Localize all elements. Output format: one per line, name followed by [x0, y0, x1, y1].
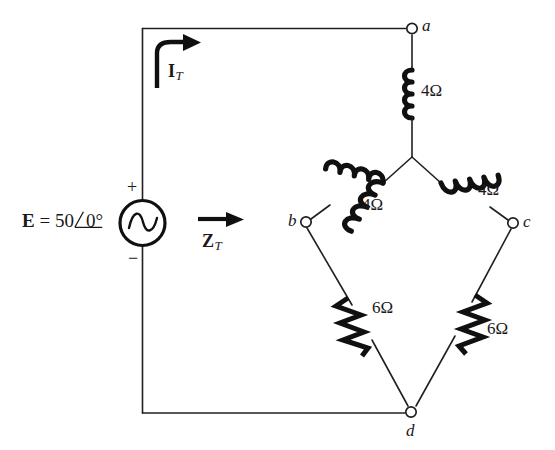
current-subscript: T: [175, 68, 183, 83]
impedance-label: ZT: [202, 232, 222, 252]
current-symbol: I: [168, 61, 175, 81]
resistor-left-value: 6Ω: [372, 299, 393, 316]
circuit-diagram: E = 500° + − IT ZT a b c d 4Ω 4Ω 4Ω 6Ω 6…: [0, 0, 555, 450]
inductor-top: [405, 70, 413, 118]
source-plus-sign: +: [127, 178, 137, 196]
source-minus-sign: −: [128, 249, 138, 267]
node-label-b: b: [288, 212, 297, 229]
current-label: IT: [168, 62, 183, 82]
wire-center-to-right-coil: [412, 157, 441, 183]
inductor-left-value: 4Ω: [362, 196, 383, 213]
wire-right-coil-to-c: [490, 207, 508, 220]
node-label-a: a: [422, 17, 431, 34]
impedance-arrow: [198, 212, 244, 227]
impedance-subscript: T: [214, 238, 222, 253]
ac-voltage-source: [120, 201, 165, 246]
angle-notation: 0°: [74, 211, 103, 230]
node-label-d: d: [406, 422, 415, 439]
node-d-terminal: [406, 407, 416, 417]
wire-c-to-right-resistor: [472, 229, 511, 302]
wire-left-coil-to-b: [311, 205, 330, 219]
wire-b-to-left-resistor: [307, 228, 352, 305]
source-equals: =: [39, 210, 50, 231]
source-magnitude: 50: [55, 210, 74, 231]
resistor-right-value: 6Ω: [487, 320, 508, 337]
source-label: E = 500°: [22, 211, 103, 230]
source-symbol: E: [22, 210, 35, 231]
resistor-right: [459, 295, 487, 354]
wire-left-resistor-to-d: [372, 340, 408, 406]
source-angle: 0°: [77, 210, 103, 231]
node-label-c: c: [523, 213, 531, 230]
node-a-terminal: [407, 23, 417, 33]
impedance-symbol: Z: [202, 231, 214, 251]
inductor-top-value: 4Ω: [421, 82, 442, 99]
inductor-right-value: 4Ω: [478, 181, 499, 198]
node-b-terminal: [301, 217, 311, 227]
node-c-terminal: [508, 218, 518, 228]
resistor-left: [336, 298, 368, 356]
wire-center-to-left-coil: [383, 157, 412, 183]
wire-right-resistor-to-d: [416, 336, 455, 406]
